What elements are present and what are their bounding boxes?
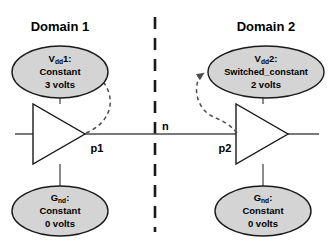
domain2-gnd-type: Constant	[242, 205, 284, 216]
diagram-canvas: Domain 1 Domain 2 Vdd1: Constant 3 volts…	[0, 0, 334, 244]
port-label-p1: p1	[91, 142, 104, 154]
net-label-n: n	[162, 120, 169, 132]
port-label-p2: p2	[219, 142, 232, 154]
domain2-gnd-value: 0 volts	[248, 218, 278, 229]
power-domain-diagram: Domain 1 Domain 2 Vdd1: Constant 3 volts…	[0, 0, 334, 244]
domain1-gnd-value: 0 volts	[45, 218, 75, 229]
domain2-vdd-type: Switched_constant	[224, 67, 308, 77]
domain1-gnd-type: Constant	[39, 205, 81, 216]
domain2-title: Domain 2	[237, 19, 296, 34]
domain1-title: Domain 1	[31, 19, 90, 34]
domain2-buffer-triangle	[236, 104, 288, 164]
domain1-vdd-type: Constant	[39, 66, 81, 77]
domain1-buffer-triangle	[33, 104, 85, 164]
domain1-vdd-value: 3 volts	[45, 79, 75, 90]
domain2-vdd-value: 2 volts	[251, 79, 281, 90]
